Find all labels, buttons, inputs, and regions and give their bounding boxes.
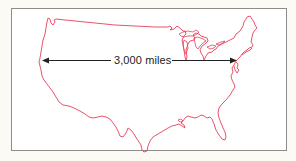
us-outline-path — [39, 16, 257, 152]
distance-label: 3,000 miles — [113, 54, 172, 66]
gulf-coast-detail-path — [178, 119, 183, 122]
arrowhead-right-icon — [230, 58, 237, 64]
us-map-outline — [0, 0, 296, 161]
arrowhead-left-icon — [42, 58, 49, 64]
